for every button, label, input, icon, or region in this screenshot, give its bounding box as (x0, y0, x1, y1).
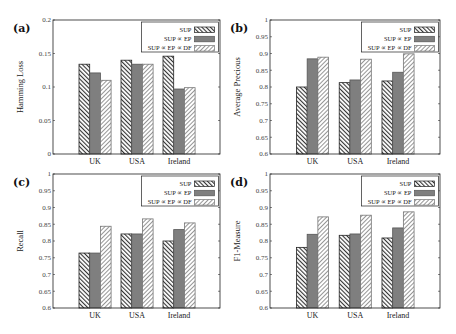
bar-usa-1 (132, 234, 143, 308)
bar-uk-2 (318, 217, 329, 308)
legend: SUPSUP ∝ EPSUP ∝ EP ∝ DF (142, 22, 219, 52)
legend-label: SUP (400, 180, 412, 187)
bar-uk-0 (296, 247, 307, 308)
y-tick-label: 0.9 (42, 204, 51, 212)
y-tick-label: 0.7 (42, 271, 51, 279)
bar-usa-0 (121, 234, 132, 308)
x-tick-label: USA (129, 157, 145, 166)
bar-uk-0 (79, 253, 90, 308)
y-tick-label: 1 (265, 170, 269, 178)
bar-ireland-2 (184, 88, 195, 154)
legend-swatch-hatch-forward (415, 200, 435, 206)
legend-label: SUP ∝ EP (164, 35, 192, 42)
x-tick-label: Ireland (168, 157, 191, 166)
panel-label: (a) (13, 22, 31, 35)
bar-ireland-0 (382, 81, 393, 154)
legend: SUPSUP ∝ EPSUP ∝ EP ∝ DF (362, 22, 439, 52)
bar-usa-2 (142, 64, 153, 154)
y-tick-label: 0.85 (256, 221, 269, 229)
legend-swatch-solid-gray (195, 36, 215, 42)
x-tick-label: USA (347, 157, 363, 166)
bar-uk-0 (79, 64, 90, 154)
y-tick-label: 0.85 (256, 67, 269, 75)
bar-uk-0 (296, 87, 307, 154)
y-tick-label: 0.8 (42, 237, 51, 245)
bar-usa-2 (361, 59, 372, 154)
legend-swatch-hatch-back (195, 27, 215, 33)
legend-swatch-hatch-forward (195, 46, 215, 52)
bar-usa-0 (339, 235, 350, 308)
bar-ireland-0 (382, 238, 393, 308)
y-axis-label: F1-Measure (232, 220, 242, 261)
y-axis-label: Hamming Loss (15, 61, 25, 113)
y-tick-label: 1 (265, 16, 269, 24)
x-tick-label: Ireland (387, 157, 410, 166)
bar-ireland-2 (403, 54, 414, 154)
legend-swatch-solid-gray (415, 36, 435, 42)
y-tick-label: 0.95 (256, 33, 269, 41)
bar-ireland-1 (174, 230, 185, 308)
y-tick-label: 0.95 (256, 187, 269, 195)
chart-panel-c: (c)Recall0.60.650.70.750.80.850.90.951UK… (13, 170, 220, 320)
y-tick-label: 0.9 (259, 204, 268, 212)
y-tick-label: 0.65 (256, 134, 269, 142)
bar-uk-1 (307, 59, 318, 154)
bar-uk-2 (100, 80, 111, 154)
y-tick-label: 0.05 (39, 117, 52, 125)
bar-ireland-2 (184, 223, 195, 308)
y-tick-label: 0.65 (39, 288, 52, 296)
y-tick-label: 1 (48, 170, 52, 178)
bar-usa-1 (350, 80, 361, 154)
y-tick-label: 0.85 (39, 221, 52, 229)
bar-uk-1 (90, 253, 101, 308)
legend-label: SUP ∝ EP (384, 189, 412, 196)
legend-swatch-hatch-back (195, 181, 215, 187)
x-tick-label: UK (89, 157, 101, 166)
bar-ireland-1 (393, 228, 404, 308)
legend-label: SUP (180, 180, 192, 187)
bar-uk-1 (307, 234, 318, 308)
y-tick-label: 0.8 (259, 83, 268, 91)
y-tick-label: 0.2 (42, 16, 51, 24)
panel-label: (d) (230, 176, 248, 189)
bar-usa-2 (361, 215, 372, 308)
x-tick-label: Ireland (387, 311, 410, 320)
bar-usa-1 (350, 234, 361, 308)
legend-label: SUP ∝ EP ∝ DF (368, 198, 412, 205)
legend: SUPSUP ∝ EPSUP ∝ EP ∝ DF (142, 176, 219, 206)
panel-label: (c) (13, 176, 30, 189)
legend-label: SUP ∝ EP (384, 35, 412, 42)
x-tick-label: UK (307, 311, 319, 320)
bar-ireland-1 (393, 72, 404, 154)
y-tick-label: 0.75 (256, 100, 269, 108)
legend-label: SUP ∝ EP ∝ DF (368, 44, 412, 51)
legend-label: SUP ∝ EP ∝ DF (148, 198, 192, 205)
y-tick-label: 0.1 (42, 83, 51, 91)
y-tick-label: 0.6 (259, 150, 268, 158)
y-tick-label: 0 (48, 150, 52, 158)
bar-uk-2 (318, 57, 329, 154)
bar-ireland-2 (403, 212, 414, 308)
y-tick-label: 0.75 (256, 254, 269, 262)
bar-usa-1 (132, 64, 143, 154)
legend-swatch-hatch-back (415, 27, 435, 33)
y-tick-label: 0.7 (259, 271, 268, 279)
x-tick-label: USA (129, 311, 145, 320)
panel-label: (b) (230, 22, 248, 35)
y-axis-label: Recall (15, 230, 25, 252)
bar-uk-1 (90, 73, 101, 154)
bar-usa-0 (339, 83, 350, 154)
y-tick-label: 0.9 (259, 50, 268, 58)
y-tick-label: 0.95 (39, 187, 52, 195)
bar-usa-2 (142, 219, 153, 308)
legend-label: SUP ∝ EP ∝ DF (148, 44, 192, 51)
x-tick-label: Ireland (168, 311, 191, 320)
legend-swatch-hatch-forward (415, 46, 435, 52)
legend-swatch-solid-gray (195, 190, 215, 196)
y-tick-label: 0.6 (42, 304, 51, 312)
legend-swatch-solid-gray (415, 190, 435, 196)
legend: SUPSUP ∝ EPSUP ∝ EP ∝ DF (362, 176, 439, 206)
legend-label: SUP ∝ EP (164, 189, 192, 196)
legend-label: SUP (400, 26, 412, 33)
legend-label: SUP (180, 26, 192, 33)
